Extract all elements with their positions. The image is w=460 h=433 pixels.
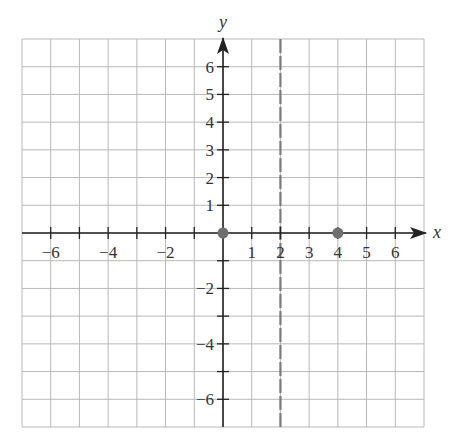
x-tick-label: 2: [276, 243, 285, 262]
x-tick-label: 5: [362, 243, 371, 262]
y-tick-label: −4: [196, 335, 215, 354]
y-tick-label: −2: [196, 279, 214, 298]
x-axis-label: x: [432, 222, 441, 242]
y-axis-label: y: [217, 12, 227, 32]
y-tick-label: 4: [206, 113, 215, 132]
x-tick-label: −2: [157, 243, 175, 262]
x-tick-label: 3: [305, 243, 314, 262]
y-tick-label: 3: [206, 141, 215, 160]
x-tick-label: −6: [42, 243, 60, 262]
y-tick-label: 1: [206, 196, 215, 215]
x-tick-label: 6: [391, 243, 400, 262]
x-tick-label: 4: [334, 243, 343, 262]
coordinate-plane: −6−4−2123456654321−2−4−6 x y: [0, 0, 460, 433]
x-tick-label: 1: [247, 243, 256, 262]
y-tick-label: 6: [206, 58, 215, 77]
y-tick-label: 2: [206, 169, 215, 188]
data-point: [218, 228, 229, 239]
x-tick-label: −4: [99, 243, 118, 262]
y-tick-label: −6: [196, 390, 214, 409]
data-point: [332, 228, 343, 239]
y-tick-label: 5: [206, 85, 215, 104]
